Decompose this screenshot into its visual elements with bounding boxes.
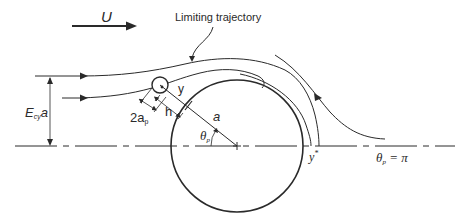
velocity-label: U: [101, 9, 112, 24]
diagram-svg: [0, 0, 470, 218]
capture-width-tail: a: [41, 105, 48, 120]
ystar-arc: [240, 74, 311, 146]
limiting-trajectory-label: Limiting trajectory: [175, 12, 261, 23]
gap-label: h: [165, 105, 172, 118]
theta-pi-tail: = π: [386, 150, 408, 165]
angle-label: θp: [200, 129, 210, 144]
capture-width-sub: cy: [34, 113, 41, 120]
wake-arrow: [314, 93, 322, 101]
normal-coord-label: y: [178, 83, 184, 95]
ystar-label: y*: [309, 150, 318, 163]
particle-diameter-sub: p: [144, 118, 148, 125]
limiting-trajectory-leader: [192, 27, 213, 58]
particle-diameter-main: 2a: [130, 110, 144, 125]
diagram-canvas: U Limiting trajectory Ecya 2ap h y a θp …: [0, 0, 470, 218]
streamline-arrow-upper: [80, 73, 88, 80]
streamline-arrow-lower: [80, 95, 88, 102]
theta-angle-arc: [211, 130, 216, 146]
wake-streamline: [275, 55, 385, 139]
capture-width-label: Ecya: [25, 106, 48, 120]
ystar-sup: *: [314, 149, 318, 158]
theta-pi-label: θp = π: [376, 151, 408, 166]
angle-sub: p: [206, 136, 210, 144]
limiting-trajectory-streamline: [35, 59, 319, 146]
leader-arrowhead: [189, 56, 195, 62]
capture-width-main: E: [25, 105, 34, 120]
collector-radius-label: a: [213, 110, 220, 123]
particle-diameter-label: 2ap: [130, 111, 148, 125]
